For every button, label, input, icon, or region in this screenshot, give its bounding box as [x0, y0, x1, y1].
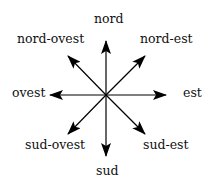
label-ovest: ovest [12, 86, 45, 100]
label-nord-est: nord-est [140, 32, 193, 46]
arrow-sud-est [106, 95, 145, 134]
label-sud: sud [96, 164, 118, 178]
label-nord-ovest: nord-ovest [17, 32, 84, 46]
arrow-nord-est [106, 56, 145, 95]
label-nord: nord [94, 12, 124, 26]
arrow-sud-ovest [68, 95, 106, 134]
label-est: est [183, 86, 202, 100]
arrow-nord-ovest [68, 56, 106, 95]
label-sud-est: sud-est [143, 138, 189, 152]
label-sud-ovest: sud-ovest [25, 138, 85, 152]
compass-diagram: nord nord-est nord-ovest est ovest sud-e… [0, 0, 208, 189]
